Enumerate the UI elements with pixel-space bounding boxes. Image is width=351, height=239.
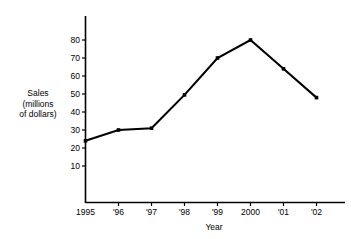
x-tick-label: '96 <box>113 208 124 217</box>
x-tick-label: '02 <box>311 208 322 217</box>
x-tick-label: '99 <box>212 208 223 217</box>
y-tick-label: 60 <box>56 72 80 81</box>
x-tick-label: 1995 <box>76 208 95 217</box>
data-point-marker <box>216 56 220 60</box>
line-chart-figure: 1020304050607080 1995'96'97'98'992000'01… <box>0 0 351 239</box>
y-axis-title: Sales (millions of dollars) <box>6 88 70 120</box>
data-point-marker <box>315 96 319 100</box>
y-tick-label: 10 <box>56 162 80 171</box>
chart-plot-area <box>0 0 351 239</box>
data-point-marker <box>117 128 121 132</box>
x-tick-label: '97 <box>146 208 157 217</box>
y-tick-label: 20 <box>56 144 80 153</box>
y-tick-label: 70 <box>56 54 80 63</box>
x-tick-label: '01 <box>278 208 289 217</box>
data-point-marker <box>249 38 253 42</box>
x-axis-title: Year <box>85 222 343 232</box>
data-point-marker <box>150 126 154 130</box>
data-point-marker <box>282 67 286 71</box>
y-tick-label: 80 <box>56 36 80 45</box>
data-point-marker <box>183 93 187 97</box>
data-point-marker <box>84 139 88 143</box>
sales-data-line <box>86 40 317 141</box>
sales-data-markers <box>84 38 319 142</box>
x-tick-label: 2000 <box>241 208 260 217</box>
x-tick-label: '98 <box>179 208 190 217</box>
y-tick-label: 30 <box>56 126 80 135</box>
